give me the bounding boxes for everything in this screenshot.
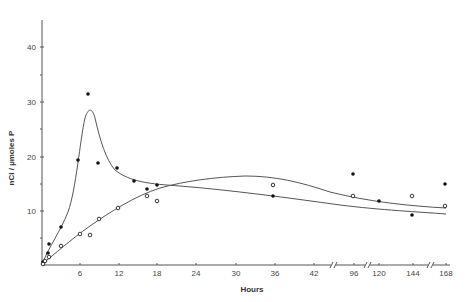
filled-series-curve xyxy=(42,110,446,264)
y-axis-title: nCi / µmoles P xyxy=(7,130,16,186)
x-tick-label: 30 xyxy=(232,269,241,278)
y-tick-label: 20 xyxy=(27,153,36,162)
x-axis-title: Hours xyxy=(240,285,264,294)
x-tick-label: 168 xyxy=(439,269,453,278)
x-tick-label: 144 xyxy=(406,269,420,278)
y-tick-label: 40 xyxy=(27,43,36,52)
x-tick-label: 42 xyxy=(310,269,319,278)
filled-series-points xyxy=(41,92,447,264)
y-tick-label: 10 xyxy=(27,207,36,216)
chart: 10 20 30 40 nCi / µmoles P 6 12 18 24 30… xyxy=(0,0,468,302)
x-tick-label: 24 xyxy=(192,269,201,278)
x-tick-label: 36 xyxy=(271,269,280,278)
open-series-points xyxy=(41,183,447,266)
x-tick-label: 120 xyxy=(372,269,386,278)
open-series-curve xyxy=(42,176,446,264)
y-tick-label: 30 xyxy=(27,98,36,107)
x-tick-label: 96 xyxy=(350,269,359,278)
x-tick-label: 18 xyxy=(153,269,162,278)
x-tick-label: 6 xyxy=(78,269,83,278)
x-tick-label: 12 xyxy=(115,269,124,278)
